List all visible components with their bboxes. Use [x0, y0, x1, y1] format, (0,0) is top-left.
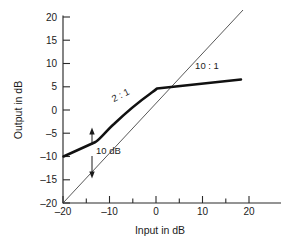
y-tick-label: 10 [46, 58, 58, 69]
x-tick-label: –20 [55, 206, 72, 217]
y-axis-title: Output in dB [12, 81, 24, 139]
chart-canvas: 20 15 10 5 0 –5 –10 –15 –20 –20 –10 0 [0, 0, 283, 246]
y-axis-tick-labels: 20 15 10 5 0 –5 –10 –15 –20 [40, 12, 57, 209]
y-tick-label: 5 [51, 81, 57, 92]
x-tick-label: –10 [101, 206, 118, 217]
y-tick-label: 0 [51, 105, 57, 116]
offset-arrow-down-head [89, 172, 94, 179]
compression-transfer-chart: 20 15 10 5 0 –5 –10 –15 –20 –20 –10 0 [0, 0, 283, 246]
y-tick-label: –15 [40, 174, 57, 185]
offset-10-db-label: 10 dB [96, 145, 121, 156]
y-tick-label: –10 [40, 151, 57, 162]
ratio-10-to-1-label: 10 : 1 [195, 60, 219, 71]
x-tick-label: 20 [243, 206, 255, 217]
y-tick-label: 15 [46, 35, 58, 46]
offset-10-db-annotation: 10 dB [89, 128, 121, 179]
y-tick-label: –5 [46, 128, 58, 139]
ratio-2-to-1-label: 2 : 1 [110, 86, 131, 104]
offset-arrow-up-head [89, 128, 94, 135]
compression-transfer-curve [64, 80, 242, 157]
x-tick-label: 0 [153, 206, 159, 217]
x-axis-tick-labels: –20 –10 0 10 20 [55, 206, 255, 217]
y-tick-label: 20 [46, 12, 58, 23]
x-tick-label: 10 [197, 206, 209, 217]
x-axis-title: Input in dB [135, 224, 185, 236]
y-axis-ticks [63, 17, 70, 203]
x-axis-ticks [63, 196, 249, 203]
